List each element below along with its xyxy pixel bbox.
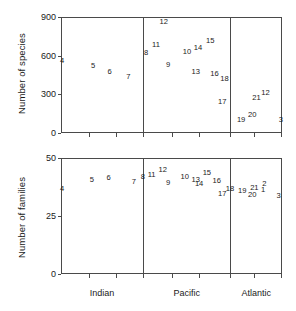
families-x-tick bbox=[281, 274, 282, 278]
species-axis-title: Number of species bbox=[16, 24, 27, 124]
category-label-pacific: Pacific bbox=[173, 289, 200, 298]
species-x-tick bbox=[254, 133, 255, 137]
data-point-label: 21 bbox=[252, 94, 260, 102]
data-point-label: 5 bbox=[91, 62, 95, 70]
species-x-tick bbox=[89, 133, 90, 137]
families-x-tick bbox=[172, 274, 173, 278]
families-y-tick-label: 50 bbox=[46, 154, 56, 163]
data-point-label: 19 bbox=[237, 116, 245, 124]
species-category-divider-1 bbox=[143, 17, 144, 133]
species-x-tick bbox=[116, 133, 117, 137]
data-point-label: 6 bbox=[107, 69, 111, 77]
families-x-tick bbox=[199, 274, 200, 278]
data-point-label: 15 bbox=[206, 37, 214, 45]
data-point-label: 8 bbox=[144, 49, 148, 57]
data-point-label: 12 bbox=[160, 18, 168, 26]
species-y-tick bbox=[58, 133, 62, 134]
data-point-label: 5 bbox=[90, 176, 94, 184]
families-y-tick-label: 0 bbox=[51, 270, 56, 279]
data-point-label: 12 bbox=[158, 166, 166, 174]
species-x-tick bbox=[199, 133, 200, 137]
data-point-label: 1 bbox=[261, 186, 265, 194]
families-x-tick bbox=[230, 274, 231, 278]
species-y-tick bbox=[58, 17, 62, 18]
data-point-label: 15 bbox=[203, 170, 211, 178]
category-label-indian: Indian bbox=[90, 289, 115, 298]
families-y-tick bbox=[58, 274, 62, 275]
species-x-tick bbox=[281, 133, 282, 137]
families-category-divider-2 bbox=[230, 158, 231, 274]
data-point-label: 11 bbox=[148, 171, 156, 179]
families-x-tick bbox=[89, 274, 90, 278]
species-y-tick-label: 600 bbox=[41, 51, 56, 60]
data-point-label: 20 bbox=[248, 111, 256, 119]
data-point-label: 14 bbox=[194, 44, 202, 52]
species-x-tick bbox=[172, 133, 173, 137]
families-y-tick bbox=[58, 216, 62, 217]
data-point-label: 20 bbox=[248, 191, 256, 199]
data-point-label: 4 bbox=[60, 57, 64, 65]
category-label-atlantic: Atlantic bbox=[241, 289, 271, 298]
families-x-tick bbox=[116, 274, 117, 278]
species-y-tick-label: 300 bbox=[41, 90, 56, 99]
data-point-label: 9 bbox=[166, 179, 170, 187]
families-axis-title: Number of families bbox=[16, 168, 27, 268]
families-y-tick-label: 25 bbox=[46, 212, 56, 221]
data-point-label: 19 bbox=[238, 188, 246, 196]
data-point-label: 17 bbox=[218, 190, 226, 198]
data-point-label: 16 bbox=[210, 70, 218, 78]
families-y-tick bbox=[58, 158, 62, 159]
data-point-label: 14 bbox=[195, 181, 203, 189]
data-point-label: 8 bbox=[141, 173, 145, 181]
data-point-label: 4 bbox=[60, 186, 64, 194]
species-category-divider-2 bbox=[230, 17, 231, 133]
figure: Number of species 0300600900456781112910… bbox=[0, 0, 296, 311]
species-y-tick bbox=[58, 94, 62, 95]
families-scatter-panel: 02550456781112910131514161817192120213 bbox=[61, 158, 282, 274]
data-point-label: 6 bbox=[106, 174, 110, 182]
data-point-label: 18 bbox=[226, 186, 234, 194]
families-x-tick bbox=[143, 274, 144, 278]
families-x-tick bbox=[254, 274, 255, 278]
species-x-tick bbox=[143, 133, 144, 137]
data-point-label: 18 bbox=[220, 75, 228, 83]
data-point-label: 13 bbox=[192, 69, 200, 77]
species-x-tick bbox=[230, 133, 231, 137]
data-point-label: 10 bbox=[181, 173, 189, 181]
species-y-tick-label: 0 bbox=[51, 129, 56, 138]
data-point-label: 7 bbox=[126, 73, 130, 81]
data-point-label: 12 bbox=[261, 89, 269, 97]
data-point-label: 16 bbox=[213, 177, 221, 185]
data-point-label: 3 bbox=[279, 116, 283, 124]
data-point-label: 3 bbox=[277, 192, 281, 200]
data-point-label: 17 bbox=[218, 98, 226, 106]
data-point-label: 9 bbox=[166, 61, 170, 69]
data-point-label: 11 bbox=[152, 42, 160, 50]
species-scatter-panel: 0300600900456781112910141513161817192021… bbox=[61, 17, 282, 133]
families-plot-frame bbox=[61, 158, 282, 274]
data-point-label: 10 bbox=[183, 49, 191, 57]
species-y-tick-label: 900 bbox=[41, 13, 56, 22]
data-point-label: 7 bbox=[132, 179, 136, 187]
